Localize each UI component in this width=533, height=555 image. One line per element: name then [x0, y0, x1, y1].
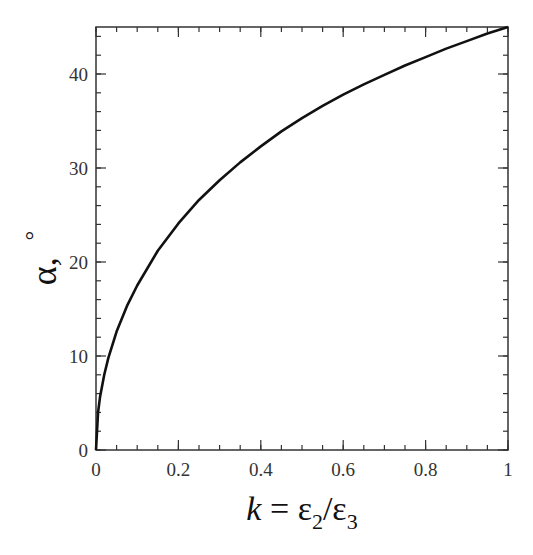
- svg-text:α, °: α, °: [21, 231, 64, 285]
- x-tick-label: 0.2: [167, 459, 191, 480]
- x-axis-title: k = ε2/ε3: [246, 490, 357, 534]
- minor-ticks: [96, 27, 508, 450]
- y-axis-degree-symbol: °: [21, 231, 47, 241]
- x-tick-label: 0.4: [249, 459, 273, 480]
- y-tick-label: 20: [69, 252, 88, 273]
- x-tick-label: 1: [503, 459, 513, 480]
- chart: 00.20.40.60.81010203040 α, ° k = ε2/ε3: [0, 0, 533, 555]
- y-axis-alpha: α,: [24, 257, 64, 285]
- y-axis-title: α, °: [21, 231, 64, 285]
- x-tick-label: 0.6: [331, 459, 355, 480]
- x-tick-label: 0: [91, 459, 101, 480]
- major-ticks: [96, 27, 508, 450]
- plot-frame: [96, 27, 508, 450]
- y-tick-label: 40: [69, 64, 88, 85]
- data-line: [96, 27, 508, 450]
- y-tick-label: 10: [69, 346, 88, 367]
- x-tick-label: 0.8: [414, 459, 438, 480]
- y-tick-label: 30: [69, 158, 88, 179]
- y-tick-label: 0: [79, 440, 89, 461]
